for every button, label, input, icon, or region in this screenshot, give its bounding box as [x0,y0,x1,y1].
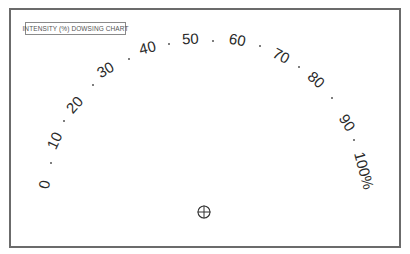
scale-dot [331,97,333,99]
scale-label: 40 [137,38,157,57]
crosshair-circle-icon [197,205,211,219]
scale-dot [50,162,52,164]
scale-dot [212,40,214,42]
scale-dot [168,43,170,45]
scale-dot [298,66,300,68]
scale-dot [128,58,130,60]
chart-title: INTENSITY (%) DOWSING CHART [25,22,126,35]
scale-dot [92,84,94,86]
scale-label: 50 [181,30,198,46]
scale-dot [63,120,65,122]
scale-dot [353,139,355,141]
scale-dot [259,45,261,47]
scale-label: 60 [227,30,246,48]
